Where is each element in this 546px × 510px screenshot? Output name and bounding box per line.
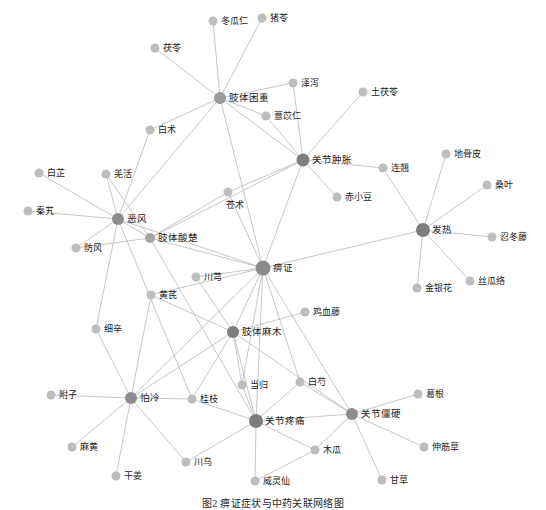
node-marker[interactable] (333, 193, 342, 202)
node-marker[interactable] (102, 170, 111, 179)
node-marker[interactable] (483, 181, 492, 190)
node-marker[interactable] (146, 126, 155, 135)
graph-node[interactable]: 恶风 (112, 213, 147, 225)
graph-node[interactable]: 细辛 (92, 323, 123, 334)
graph-node[interactable]: 发热 (416, 223, 452, 237)
node-marker[interactable] (442, 150, 451, 159)
graph-node[interactable]: 冬瓜仁 (209, 15, 249, 26)
node-marker[interactable] (35, 169, 44, 178)
node-marker[interactable] (378, 476, 387, 485)
node-marker[interactable] (311, 446, 320, 455)
node-marker[interactable] (209, 17, 218, 26)
graph-node[interactable]: 肢体困重 (214, 92, 269, 104)
graph-node[interactable]: 葛根 (414, 388, 445, 399)
graph-node[interactable]: 怕冷 (125, 392, 160, 404)
graph-node[interactable]: 薏苡仁 (262, 110, 302, 121)
node-marker[interactable] (262, 112, 271, 121)
node-marker[interactable] (379, 164, 388, 173)
graph-node[interactable]: 泽泻 (289, 78, 320, 88)
graph-node[interactable]: 桂枝 (188, 393, 219, 404)
graph-node[interactable]: 丝瓜络 (466, 275, 506, 286)
graph-node[interactable]: 伸筋草 (420, 441, 460, 452)
node-marker[interactable] (249, 414, 263, 428)
node-marker[interactable] (92, 325, 101, 334)
node-marker[interactable] (125, 392, 137, 404)
node-marker[interactable] (192, 273, 201, 282)
node-marker[interactable] (112, 472, 121, 481)
graph-node[interactable]: 白芍 (296, 376, 327, 387)
graph-node[interactable]: 关节疼痛 (249, 414, 305, 428)
node-marker[interactable] (182, 458, 191, 467)
graph-node[interactable]: 黄芪 (147, 289, 178, 300)
node-marker[interactable] (72, 244, 81, 253)
node-marker[interactable] (297, 154, 310, 167)
graph-node[interactable]: 土茯苓 (359, 86, 399, 97)
graph-node[interactable]: 附子 (47, 389, 78, 400)
graph-node[interactable]: 威灵仙 (251, 475, 291, 486)
node-marker[interactable] (227, 326, 239, 338)
node-marker[interactable] (413, 284, 422, 293)
node-label: 肢体麻木 (242, 326, 282, 337)
node-label: 苍术 (226, 199, 244, 210)
graph-node[interactable]: 茯苓 (151, 42, 182, 53)
node-marker[interactable] (24, 207, 33, 216)
node-marker[interactable] (301, 308, 310, 317)
node-marker[interactable] (420, 443, 429, 452)
node-marker[interactable] (256, 261, 271, 276)
graph-node[interactable]: 川乌 (182, 456, 213, 467)
graph-node[interactable]: 赤小豆 (333, 192, 373, 202)
graph-node[interactable]: 秦艽 (24, 205, 55, 216)
graph-node[interactable]: 甘草 (378, 474, 409, 485)
node-marker[interactable] (112, 213, 124, 225)
node-marker[interactable] (346, 408, 358, 420)
graph-edge (352, 414, 382, 480)
node-label: 木瓜 (323, 444, 341, 455)
graph-node[interactable]: 金银花 (413, 282, 453, 293)
graph-node[interactable]: 川芎 (192, 271, 223, 282)
graph-edge (220, 18, 262, 98)
node-marker[interactable] (258, 14, 267, 23)
node-marker[interactable] (416, 223, 430, 237)
node-marker[interactable] (147, 291, 156, 300)
graph-node[interactable]: 肢体麻木 (227, 326, 282, 338)
graph-node[interactable]: 忍冬藤 (488, 231, 528, 242)
graph-node[interactable]: 当归 (238, 379, 269, 390)
graph-node[interactable]: 羌活 (102, 168, 133, 179)
node-marker[interactable] (414, 390, 423, 399)
node-label: 发热 (432, 224, 452, 235)
graph-node[interactable]: 桑叶 (483, 180, 514, 190)
graph-node[interactable]: 麻黄 (68, 441, 99, 452)
node-marker[interactable] (296, 378, 305, 387)
node-marker[interactable] (359, 88, 368, 97)
graph-node[interactable]: 肢体酸楚 (145, 232, 198, 243)
node-marker[interactable] (214, 92, 226, 104)
node-marker[interactable] (488, 233, 497, 242)
node-marker[interactable] (151, 44, 160, 53)
graph-node[interactable]: 木瓜 (311, 444, 342, 455)
graph-node[interactable]: 猪苓 (258, 12, 289, 23)
node-marker[interactable] (188, 395, 197, 404)
graph-node[interactable]: 关节肿胀 (297, 154, 353, 167)
node-marker[interactable] (251, 477, 260, 486)
graph-edge (423, 230, 470, 281)
graph-node[interactable]: 连翘 (379, 162, 410, 173)
graph-node[interactable]: 地骨皮 (442, 148, 482, 159)
graph-node[interactable]: 关节僵硬 (346, 408, 401, 420)
node-marker[interactable] (145, 233, 155, 243)
node-marker[interactable] (466, 277, 475, 286)
node-marker[interactable] (289, 79, 298, 88)
node-label: 威灵仙 (263, 475, 290, 486)
node-marker[interactable] (68, 443, 77, 452)
graph-node[interactable]: 白术 (146, 124, 177, 135)
graph-node[interactable]: 痹证 (256, 261, 294, 276)
node-label: 葛根 (426, 388, 444, 399)
graph-node[interactable]: 防风 (72, 242, 103, 253)
node-marker[interactable] (238, 381, 247, 390)
node-marker[interactable] (47, 391, 56, 400)
node-label: 忍冬藤 (500, 231, 527, 242)
graph-node[interactable]: 干姜 (112, 470, 143, 481)
graph-node[interactable]: 白芷 (35, 167, 66, 178)
node-marker[interactable] (224, 188, 233, 197)
graph-node[interactable]: 鸡血藤 (301, 306, 341, 317)
